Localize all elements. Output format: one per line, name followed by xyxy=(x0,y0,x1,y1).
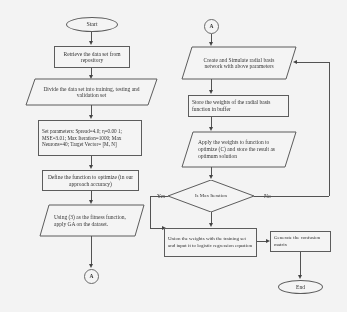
end-terminator: End xyxy=(278,280,323,294)
io-divide-dataset: Divide the data set into training, testi… xyxy=(26,79,157,105)
process-store-weights: Store the weights of the radial basis fu… xyxy=(188,95,289,117)
arrowhead-ga-to-connector-a xyxy=(89,264,93,268)
edge-ga-to-connector-a xyxy=(91,236,92,265)
edge-no-vertical xyxy=(329,62,330,196)
process-union-weights: Union the weights with the training set … xyxy=(164,228,257,257)
arrowhead-connector-to-create xyxy=(209,42,213,46)
flowchart-canvas: Start Retrieve the data set from reposit… xyxy=(0,0,347,312)
decision-is-max-iteration: Is Max Iteration xyxy=(168,180,254,212)
io-apply-ga: Using (3) as the fitness function, apply… xyxy=(40,205,144,236)
edge-confusion-to-end xyxy=(300,252,301,276)
process-define-function: Define the function to optimize (in our … xyxy=(42,170,139,191)
io-apply-weights: Apply the weights to function to optimiz… xyxy=(182,132,296,167)
arrowhead-create-to-store xyxy=(209,90,213,94)
io-create-simulate-network: Create and Simulate radial basis network… xyxy=(182,47,296,79)
arrowhead-no-return xyxy=(293,60,297,64)
arrowhead-parameters-to-define xyxy=(89,165,93,169)
process-set-parameters: Set parameters: Spread=4.0; η=0.00 1; MS… xyxy=(38,120,142,156)
arrowhead-start-to-retrieve xyxy=(89,41,93,45)
arrowhead-decision-to-union xyxy=(209,223,213,227)
start-terminator: Start xyxy=(66,17,118,32)
process-retrieve-dataset: Retrieve the data set from repository xyxy=(54,46,130,68)
edge-yes-vertical xyxy=(150,196,151,228)
io-apply-ga-label: Using (3) as the fitness function, apply… xyxy=(40,205,144,236)
connector-a-in: A xyxy=(204,19,219,34)
process-confusion-matrix: Generate the confusion matrix xyxy=(270,231,331,252)
arrowhead-confusion-to-end xyxy=(298,275,302,279)
io-create-simulate-label: Create and Simulate radial basis network… xyxy=(182,47,296,79)
arrowhead-divide-to-parameters xyxy=(89,115,93,119)
edge-yes-horizontal xyxy=(150,196,168,197)
arrowhead-store-to-apply xyxy=(209,127,213,131)
connector-a-out: A xyxy=(84,269,99,284)
edge-no-horizontal xyxy=(254,196,329,197)
io-apply-weights-label: Apply the weights to function to optimiz… xyxy=(182,132,296,167)
edge-no-return-horizontal xyxy=(296,62,329,63)
arrowhead-apply-to-decision xyxy=(209,175,213,179)
arrowhead-define-to-ga xyxy=(89,200,93,204)
decision-label: Is Max Iteration xyxy=(168,180,254,212)
io-divide-dataset-label: Divide the data set into training, testi… xyxy=(26,79,157,105)
